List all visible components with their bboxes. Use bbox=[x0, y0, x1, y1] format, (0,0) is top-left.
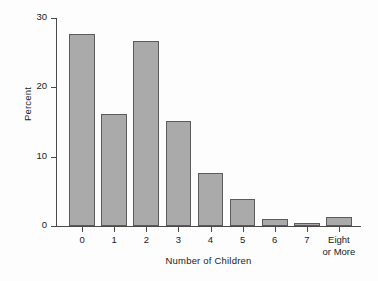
bar bbox=[230, 199, 256, 226]
bar bbox=[326, 217, 352, 226]
y-tick: 20 bbox=[51, 87, 56, 88]
bar bbox=[133, 41, 159, 226]
x-tick bbox=[82, 227, 83, 232]
x-axis-line bbox=[56, 226, 361, 227]
plot-area: 0102030 01234567Eight or More bbox=[56, 18, 361, 226]
y-tick-label: 0 bbox=[42, 219, 47, 230]
y-tick-label: 20 bbox=[36, 80, 47, 91]
bar bbox=[69, 34, 95, 226]
bar-chart: Percent 0102030 01234567Eight or More Nu… bbox=[0, 0, 378, 281]
x-tick bbox=[211, 227, 212, 232]
y-tick: 0 bbox=[51, 226, 56, 227]
y-tick: 10 bbox=[51, 157, 56, 158]
x-tick bbox=[146, 227, 147, 232]
x-tick-label: Eight or More bbox=[317, 234, 361, 257]
y-axis-line bbox=[56, 18, 57, 227]
y-tick-label: 10 bbox=[36, 150, 47, 161]
x-tick bbox=[114, 227, 115, 232]
x-tick bbox=[307, 227, 308, 232]
bar bbox=[198, 173, 224, 226]
y-tick: 30 bbox=[51, 18, 56, 19]
x-tick bbox=[243, 227, 244, 232]
bar bbox=[294, 223, 320, 226]
y-tick-label: 30 bbox=[36, 11, 47, 22]
bar bbox=[101, 114, 127, 226]
bar bbox=[262, 219, 288, 226]
x-tick bbox=[275, 227, 276, 232]
x-tick bbox=[178, 227, 179, 232]
bar bbox=[166, 121, 192, 226]
x-axis-title: Number of Children bbox=[56, 255, 361, 266]
x-tick bbox=[339, 227, 340, 232]
